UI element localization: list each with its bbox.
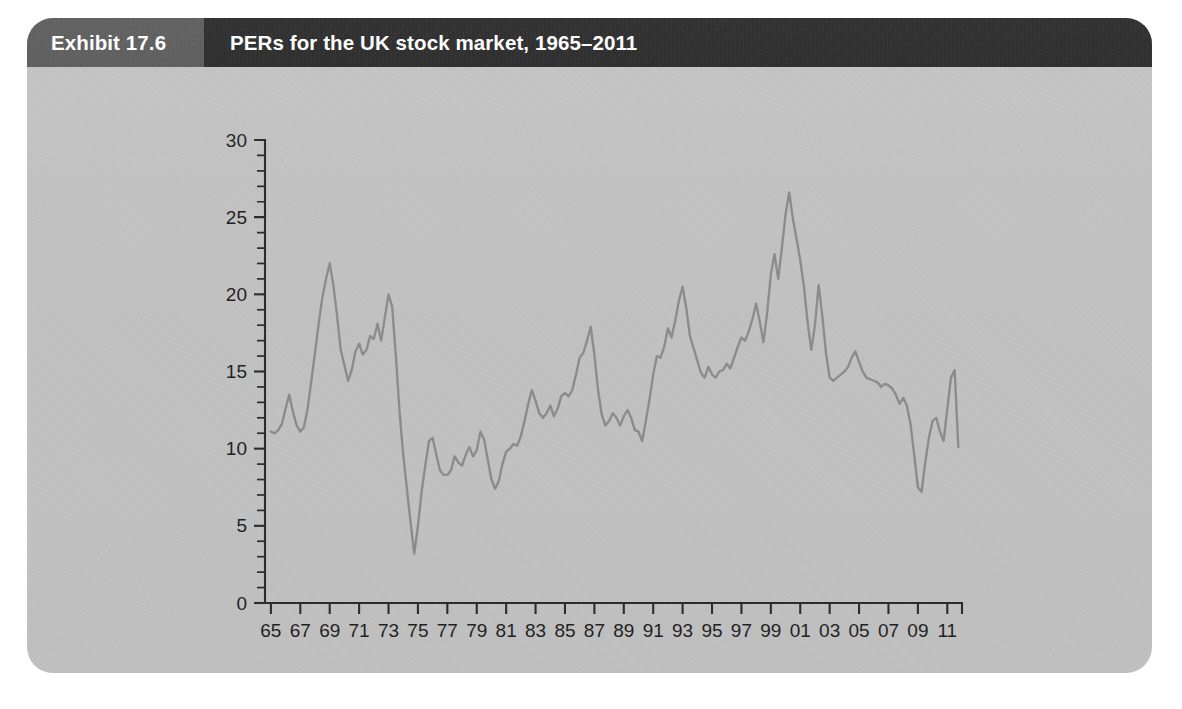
y-tick-label: 0 <box>236 593 247 614</box>
x-tick-label: 67 <box>290 620 311 641</box>
x-tick-label: 77 <box>437 620 458 641</box>
x-axis: 6567697173757779818385878991939597990103… <box>260 603 962 641</box>
exhibit-card: Exhibit 17.6 PERs for the UK stock marke… <box>27 18 1152 673</box>
x-tick-label: 83 <box>525 620 546 641</box>
exhibit-number-band: Exhibit 17.6 <box>27 18 204 67</box>
y-tick-label: 30 <box>226 130 247 151</box>
y-tick-label: 20 <box>226 284 247 305</box>
per-line-chart: 051015202530 656769717375777981838587899… <box>27 67 1152 673</box>
x-tick-label: 09 <box>907 620 928 641</box>
x-tick-label: 91 <box>643 620 664 641</box>
y-tick-label: 10 <box>226 438 247 459</box>
y-axis: 051015202530 <box>226 130 265 614</box>
exhibit-title-label: PERs for the UK stock market, 1965–2011 <box>230 31 637 55</box>
x-tick-label: 75 <box>407 620 428 641</box>
y-tick-label: 5 <box>236 515 247 536</box>
x-tick-label: 07 <box>878 620 899 641</box>
x-tick-label: 73 <box>378 620 399 641</box>
x-tick-label: 89 <box>613 620 634 641</box>
series-group <box>271 192 958 553</box>
chart-plot-area: 051015202530 656769717375777981838587899… <box>27 67 1152 673</box>
x-tick-label: 05 <box>848 620 869 641</box>
exhibit-number-label: Exhibit 17.6 <box>51 31 166 55</box>
x-tick-label: 01 <box>790 620 811 641</box>
x-tick-label: 65 <box>260 620 281 641</box>
x-tick-label: 81 <box>496 620 517 641</box>
x-tick-label: 87 <box>584 620 605 641</box>
series-path <box>271 192 958 553</box>
y-tick-label: 25 <box>226 207 247 228</box>
x-tick-label: 71 <box>349 620 370 641</box>
x-tick-label: 95 <box>701 620 722 641</box>
y-tick-label: 15 <box>226 361 247 382</box>
x-tick-label: 79 <box>466 620 487 641</box>
screenshot-root: Exhibit 17.6 PERs for the UK stock marke… <box>0 0 1182 709</box>
x-tick-label: 69 <box>319 620 340 641</box>
exhibit-header: Exhibit 17.6 PERs for the UK stock marke… <box>27 18 1152 67</box>
x-tick-label: 97 <box>731 620 752 641</box>
x-tick-label: 85 <box>554 620 575 641</box>
exhibit-title-band: PERs for the UK stock market, 1965–2011 <box>204 18 1152 67</box>
x-tick-label: 03 <box>819 620 840 641</box>
x-tick-label: 93 <box>672 620 693 641</box>
x-tick-label: 11 <box>937 620 957 641</box>
x-tick-label: 99 <box>760 620 781 641</box>
